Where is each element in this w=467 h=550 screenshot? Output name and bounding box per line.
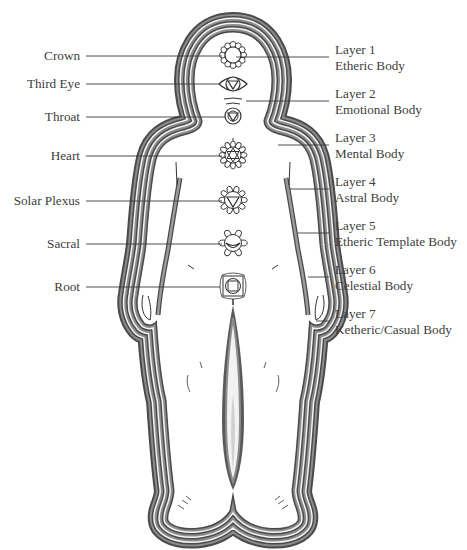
layer-4-number: Layer 4 <box>335 174 399 190</box>
layer-7-number: Layer 7 <box>335 306 452 322</box>
layer-2-name: Emotional Body <box>335 102 422 118</box>
label-layer-6: Layer 6 Celestial Body <box>335 262 413 294</box>
label-solar-plexus: Solar Plexus <box>0 193 80 209</box>
layer-1-name: Etheric Body <box>335 58 405 74</box>
label-crown: Crown <box>0 48 80 64</box>
throat-chakra-icon <box>225 108 241 124</box>
label-heart: Heart <box>0 148 80 164</box>
label-layer-7: Layer 7 Ketheric/Casual Body <box>335 306 452 338</box>
layer-3-name: Mental Body <box>335 146 404 162</box>
layer-3-number: Layer 3 <box>335 130 404 146</box>
layer-2-number: Layer 2 <box>335 86 422 102</box>
label-layer-4: Layer 4 Astral Body <box>335 174 399 206</box>
label-sacral: Sacral <box>0 236 80 252</box>
label-layer-5: Layer 5 Etheric Template Body <box>335 218 457 250</box>
layer-5-name: Etheric Template Body <box>335 234 457 250</box>
label-third-eye: Third Eye <box>0 76 80 92</box>
layer-6-name: Celestial Body <box>335 278 413 294</box>
layer-6-number: Layer 6 <box>335 262 413 278</box>
label-layer-3: Layer 3 Mental Body <box>335 130 404 162</box>
layer-5-number: Layer 5 <box>335 218 457 234</box>
root-chakra-icon <box>220 273 246 299</box>
label-throat: Throat <box>0 109 80 125</box>
label-layer-1: Layer 1 Etheric Body <box>335 42 405 74</box>
layer-7-name: Ketheric/Casual Body <box>335 322 452 338</box>
label-root: Root <box>0 279 80 295</box>
layer-4-name: Astral Body <box>335 190 399 206</box>
layer-1-number: Layer 1 <box>335 42 405 58</box>
label-layer-2: Layer 2 Emotional Body <box>335 86 422 118</box>
